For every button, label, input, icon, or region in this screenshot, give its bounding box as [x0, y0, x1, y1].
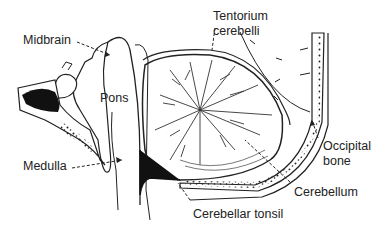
label-tentorium-line2: cerebelli — [213, 24, 260, 39]
cerebellum-shape — [143, 54, 283, 180]
label-midbrain: Midbrain — [23, 33, 71, 48]
label-occipital-line2: bone — [323, 154, 351, 169]
label-medulla: Medulla — [23, 159, 67, 174]
anatomy-diagram: Midbrain Tentorium cerebelli Pons Occipi… — [0, 0, 385, 225]
label-pons: Pons — [100, 91, 129, 106]
label-cerebellum: Cerebellum — [294, 185, 358, 200]
label-cerebellar-tonsil: Cerebellar tonsil — [193, 207, 283, 222]
label-tentorium-line1: Tentorium — [213, 9, 268, 24]
label-occipital-line1: Occipital — [323, 139, 371, 154]
